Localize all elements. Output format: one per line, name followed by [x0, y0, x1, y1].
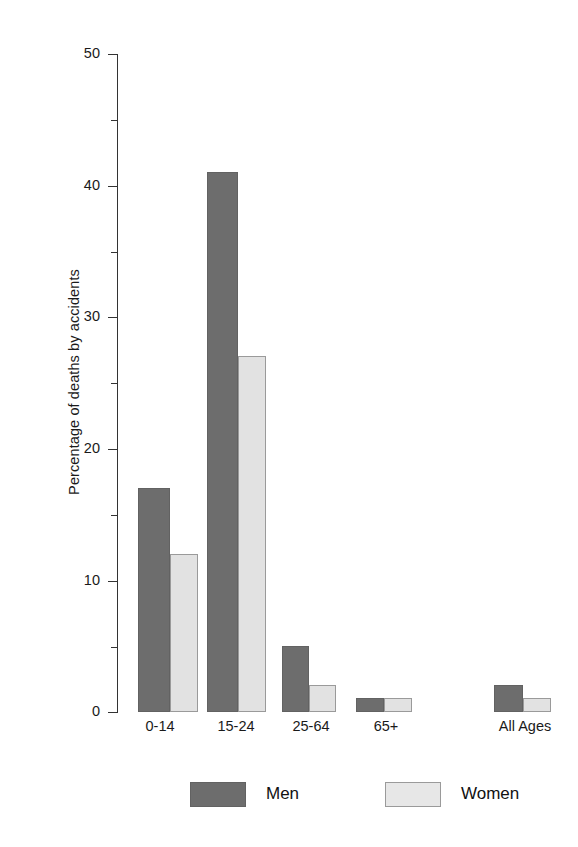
y-tick-30 [108, 317, 118, 318]
bar-men-65plus [356, 698, 384, 712]
y-axis-title: Percentage of deaths by accidents [66, 172, 82, 592]
bar-men-all-ages [494, 685, 523, 712]
y-tick-10 [108, 581, 118, 582]
y-tick-20 [108, 449, 118, 450]
x-axis-label-15-24: 15-24 [194, 718, 278, 734]
y-tick-label-30-wrap: 30 [52, 309, 100, 325]
bar-women-all-ages [523, 698, 551, 712]
legend-label-women: Women [461, 784, 519, 804]
bar-men-0-14 [138, 488, 170, 712]
y-tick-label-0: 0 [56, 704, 100, 719]
legend-swatch-women [385, 782, 441, 807]
legend-item-women: Women [385, 779, 519, 809]
chart-legend: Men Women [0, 779, 578, 819]
y-tick-label-0-wrap: 0 [52, 704, 100, 720]
y-tick-label-40: 40 [56, 178, 100, 193]
y-tick-label-30: 30 [56, 309, 100, 324]
y-tick-minor-5 [111, 647, 118, 648]
legend-item-men: Men [190, 779, 299, 809]
bar-men-15-24 [207, 172, 238, 712]
bars-layer [118, 54, 570, 712]
y-tick-label-40-wrap: 40 [52, 178, 100, 194]
y-tick-label-50-wrap: 50 [52, 46, 100, 62]
y-tick-40 [108, 186, 118, 187]
y-tick-50 [108, 54, 118, 55]
y-tick-label-10-wrap: 10 [52, 573, 100, 589]
accidents-bar-chart: Percentage of deaths by accidents 50 40 … [0, 0, 578, 847]
y-tick-label-20: 20 [56, 441, 100, 456]
bar-women-25-64 [309, 685, 336, 712]
y-tick-label-50: 50 [56, 46, 100, 61]
x-axis-label-0-14: 0-14 [118, 718, 202, 734]
bar-women-65plus [384, 698, 412, 712]
y-tick-minor-15 [111, 515, 118, 516]
bar-women-15-24 [238, 356, 266, 712]
bar-men-25-64 [282, 646, 309, 712]
legend-label-men: Men [266, 784, 299, 804]
x-axis-label-65plus: 65+ [344, 718, 428, 734]
x-axis-label-all-ages: All Ages [480, 718, 570, 734]
y-tick-label-20-wrap: 20 [52, 441, 100, 457]
legend-swatch-men [190, 782, 246, 807]
x-axis-label-25-64: 25-64 [269, 718, 353, 734]
y-tick-0 [108, 712, 118, 713]
bar-women-0-14 [170, 554, 198, 712]
y-tick-label-10: 10 [56, 573, 100, 588]
y-tick-minor-35 [111, 252, 118, 253]
y-tick-minor-45 [111, 120, 118, 121]
y-tick-minor-25 [111, 383, 118, 384]
